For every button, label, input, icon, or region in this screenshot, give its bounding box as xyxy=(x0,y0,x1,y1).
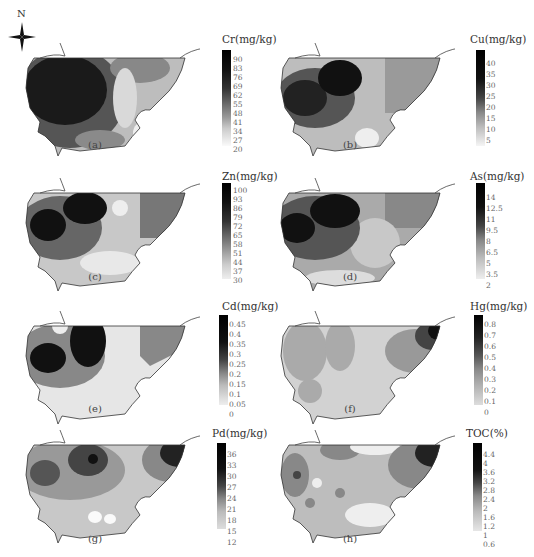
legend-colorbar-cr xyxy=(222,50,231,146)
tick-label: 4.4 xyxy=(483,451,495,459)
tick-label: 5 xyxy=(486,137,491,145)
legend-colorbar-cd xyxy=(219,315,228,405)
tick-label: 18 xyxy=(227,517,237,525)
legend-colorbar-as xyxy=(476,183,485,279)
tick-label: 0.5 xyxy=(484,354,496,362)
tick-label: 15 xyxy=(227,528,237,536)
tick-label: 2.8 xyxy=(483,487,495,495)
legend-title-hg: Hg(mg/kg) xyxy=(470,300,527,312)
panel-caption: (e) xyxy=(75,403,115,414)
tick-label: 30 xyxy=(233,277,243,285)
tick-label: 20 xyxy=(233,146,243,154)
tick-label: 62 xyxy=(233,92,243,100)
tick-label: 3.6 xyxy=(483,469,495,477)
tick-label: 11 xyxy=(486,216,496,224)
tick-label: 0.05 xyxy=(229,401,246,409)
tick-label: 0.2 xyxy=(229,371,241,379)
tick-label: 1.6 xyxy=(483,514,495,522)
tick-label: 90 xyxy=(233,56,243,64)
panel-caption: (g) xyxy=(75,533,115,544)
tick-label: 2 xyxy=(483,505,488,513)
tick-label: 76 xyxy=(233,74,243,82)
tick-label: 58 xyxy=(233,241,243,249)
tick-label: 100 xyxy=(233,187,247,195)
tick-label: 27 xyxy=(233,137,243,145)
contour-map xyxy=(255,163,455,303)
legend-colorbar-toc xyxy=(473,443,482,531)
tick-label: 33 xyxy=(227,462,237,470)
tick-label: 0.6 xyxy=(483,541,495,549)
tick-label: 30 xyxy=(486,82,496,90)
tick-label: 79 xyxy=(233,214,243,222)
tick-label: 0 xyxy=(484,409,489,417)
tick-label: 0.4 xyxy=(229,331,241,339)
tick-label: 0.15 xyxy=(229,381,246,389)
tick-label: 0.3 xyxy=(229,351,241,359)
tick-label: 86 xyxy=(233,205,243,213)
legend-title-cu: Cu(mg/kg) xyxy=(470,33,526,45)
tick-label: 72 xyxy=(233,223,243,231)
tick-label: 8 xyxy=(486,238,491,246)
tick-label: 0.25 xyxy=(229,361,246,369)
tick-label: 3.2 xyxy=(483,478,495,486)
legend-colorbar-hg xyxy=(474,315,483,405)
tick-label: 3.5 xyxy=(486,271,498,279)
tick-label: 83 xyxy=(233,65,243,73)
tick-label: 0.2 xyxy=(484,387,496,395)
contour-map xyxy=(0,163,200,303)
legend-title-as: As(mg/kg) xyxy=(470,170,524,182)
tick-label: 9.5 xyxy=(486,227,498,235)
tick-label: 0.1 xyxy=(484,398,496,406)
tick-label: 0.45 xyxy=(229,321,246,329)
tick-label: 24 xyxy=(227,495,237,503)
tick-label: 1 xyxy=(483,532,488,540)
tick-label: 0.3 xyxy=(484,376,496,384)
tick-label: 0.7 xyxy=(484,332,496,340)
tick-label: 55 xyxy=(233,101,243,109)
panel-caption: (f) xyxy=(330,403,370,414)
tick-label: 25 xyxy=(486,93,496,101)
tick-label: 4 xyxy=(483,460,488,468)
tick-label: 65 xyxy=(233,232,243,240)
panel-caption: (b) xyxy=(330,139,370,150)
north-label: N xyxy=(17,8,26,19)
tick-label: 12.5 xyxy=(486,205,503,213)
tick-label: 69 xyxy=(233,83,243,91)
tick-label: 15 xyxy=(486,115,496,123)
tick-label: 21 xyxy=(227,506,237,514)
tick-label: 34 xyxy=(233,128,243,136)
tick-label: 0.6 xyxy=(484,343,496,351)
tick-label: 0 xyxy=(229,411,234,419)
tick-label: 44 xyxy=(233,259,243,267)
tick-label: 51 xyxy=(233,250,243,258)
legend-colorbar-cu xyxy=(476,50,485,146)
tick-label: 14 xyxy=(486,194,496,202)
tick-label: 30 xyxy=(227,473,237,481)
tick-label: 36 xyxy=(227,451,237,459)
legend-colorbar-pd xyxy=(217,443,226,529)
panel-caption: (h) xyxy=(330,533,370,544)
tick-label: 2 xyxy=(486,282,491,290)
tick-label: 27 xyxy=(227,484,237,492)
panel-caption: (d) xyxy=(330,271,370,282)
tick-label: 35 xyxy=(486,71,496,79)
tick-label: 5 xyxy=(486,260,491,268)
tick-label: 41 xyxy=(233,119,243,127)
tick-label: 40 xyxy=(486,60,496,68)
legend-colorbar-zn xyxy=(222,183,231,279)
tick-label: 0.4 xyxy=(484,365,496,373)
tick-label: 0.8 xyxy=(484,321,496,329)
tick-label: 0.1 xyxy=(229,391,241,399)
tick-label: 20 xyxy=(486,104,496,112)
legend-title-toc: TOC(%) xyxy=(466,427,508,439)
tick-label: 1.2 xyxy=(483,523,495,531)
tick-label: 37 xyxy=(233,268,243,276)
tick-label: 93 xyxy=(233,196,243,204)
panel-caption: (c) xyxy=(75,271,115,282)
tick-label: 0.35 xyxy=(229,341,246,349)
tick-label: 2.4 xyxy=(483,496,495,504)
tick-label: 12 xyxy=(227,539,237,547)
tick-label: 48 xyxy=(233,110,243,118)
tick-label: 6.5 xyxy=(486,249,498,257)
panel-caption: (a) xyxy=(75,139,115,150)
